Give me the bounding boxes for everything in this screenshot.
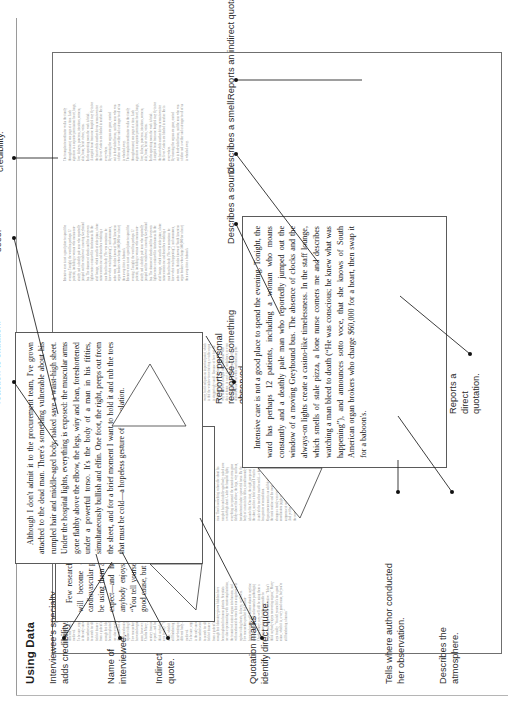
annotation-reports-direct-quotation: Reports a direct quotation. [448, 324, 483, 414]
screenshot-root: Using Data heart-beating cadaver and sew… [0, 0, 524, 714]
annotation-adds-details: Adds details that strengthen credibility… [0, 88, 6, 172]
left-margin-rule [16, 695, 508, 696]
annotation-describes-what-she-sees: Describes what she sees. [0, 180, 5, 252]
textbook-page: Using Data heart-beating cadaver and sew… [0, 0, 524, 714]
callout-setting-paragraph: Although I don't admit it to the procure… [15, 332, 203, 564]
annotation-quotation-marks: Quotation marks identify direct quote. [248, 534, 271, 684]
article-line: then swap it for a baboon's. [185, 177, 190, 281]
article-line: is wheeled away. [185, 57, 190, 161]
annotation-reports-indirect-quotation: Reports an indirect quotation. [226, 0, 238, 100]
page-title: Using Data [24, 622, 36, 684]
callout-setting-text: Although I don't admit it to the procure… [25, 342, 128, 554]
annotation-describes-atmosphere: Describes the atmosphere. [438, 564, 461, 684]
callout-scene-text: Intensive care is not a good place to sp… [252, 226, 370, 458]
callout-scene-paragraph: Intensive care is not a good place to sp… [242, 216, 447, 468]
annotation-reports-personal-reaction: Reports personal reaction to situation. [0, 244, 3, 404]
article-column-5: The transplant coordinator walks the fam… [63, 57, 493, 161]
article-line: still butchering a human.” [284, 537, 289, 641]
annotation-tells-where: Tells where author conducted her observa… [384, 494, 407, 684]
